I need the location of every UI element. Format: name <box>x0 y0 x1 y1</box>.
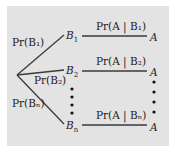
outcome-a-2: A <box>149 66 158 78</box>
outcome-a-n: A <box>149 121 158 133</box>
node-b1: B1 <box>65 29 78 44</box>
node-bn: Bn <box>65 119 79 134</box>
ellipsis-dots-outcomes <box>152 80 155 113</box>
outcome-a-1: A <box>149 31 158 43</box>
probability-tree: Pr(B₁) Pr(B₂) Pr(Bₙ) B1 B2 Bn Pr(A | B₁)… <box>0 0 175 155</box>
ellipsis-dots-nodes <box>70 87 73 114</box>
conditional-label-n: Pr(A | Bₙ) <box>96 109 146 123</box>
prior-label-1: Pr(B₁) <box>12 36 44 48</box>
prior-label-n: Pr(Bₙ) <box>12 97 45 109</box>
prior-label-2: Pr(B₂) <box>34 74 66 86</box>
conditional-label-1: Pr(A | B₁) <box>96 20 146 34</box>
node-b2: B2 <box>65 64 78 79</box>
conditional-label-2: Pr(A | B₂) <box>96 55 146 69</box>
